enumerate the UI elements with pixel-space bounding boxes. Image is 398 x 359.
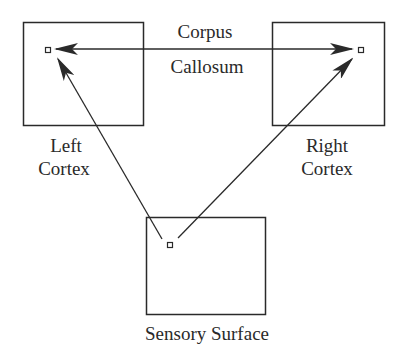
corpus-callosum-edge: Corpus Callosum xyxy=(56,21,352,77)
right-cortex-label-line2: Cortex xyxy=(301,158,353,179)
left-cortex-box xyxy=(24,23,144,126)
left-cortex-label-line1: Left xyxy=(50,135,82,156)
corpus-callosum-label-line2: Callosum xyxy=(171,56,244,77)
sensory-surface-point xyxy=(168,243,173,248)
sensory-surface-label: Sensory Surface xyxy=(145,323,269,344)
right-cortex-box xyxy=(273,23,385,126)
right-cortex-point xyxy=(359,48,364,53)
right-cortex-node: Right Cortex xyxy=(273,23,385,180)
sensory-surface-node: Sensory Surface xyxy=(145,218,269,345)
cortex-diagram: Left Cortex Right Cortex Sensory Surface… xyxy=(0,0,398,359)
right-cortex-label-line1: Right xyxy=(306,135,349,156)
left-cortex-point xyxy=(46,48,51,53)
corpus-callosum-label-line1: Corpus xyxy=(178,21,233,42)
sensory-surface-box xyxy=(147,218,266,315)
left-cortex-node: Left Cortex xyxy=(24,23,144,180)
diagram-svg: Left Cortex Right Cortex Sensory Surface… xyxy=(0,0,398,359)
left-cortex-label-line2: Cortex xyxy=(38,158,90,179)
